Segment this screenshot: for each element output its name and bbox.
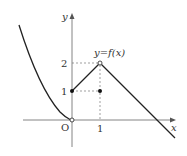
function-label: y=f(x) [93,47,125,58]
x-axis-label: x [171,122,177,133]
rising-segment [72,65,99,92]
y-tick-1: 1 [61,86,67,97]
closed-point-1-1 [98,89,102,93]
falling-ray [102,65,176,139]
origin-label: O [61,122,69,133]
function-graph: y x O 2 1 1 y=f(x) [0,0,187,156]
y-axis-arrow-icon [70,13,75,19]
y-axis-label: y [61,11,68,22]
y-tick-2: 2 [61,58,67,69]
open-point-1-2 [98,61,102,65]
x-tick-1: 1 [97,123,103,134]
closed-point-0-1 [70,89,74,93]
left-curve [19,25,70,120]
guide-lines [72,63,100,120]
open-point-origin [70,118,74,122]
